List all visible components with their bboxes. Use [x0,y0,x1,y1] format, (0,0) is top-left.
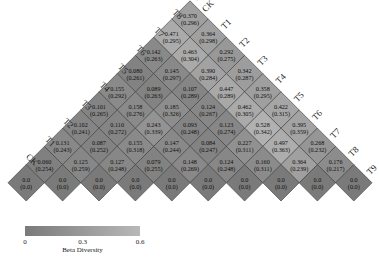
cell-sd: (0.326) [163,110,181,118]
cell-sd: (0.363) [272,146,290,154]
cell-value: 0.497 [274,139,288,146]
cell-sd: (0.315) [272,110,290,118]
cell-value: 0.185 [165,103,179,110]
cell-value: 0.268 [310,139,324,146]
cell-value: 0.123 [219,121,233,128]
cell-sd: (0.296) [181,19,199,27]
cell-value: 0.0 [241,176,249,183]
cell-sd: (0.243) [54,146,72,154]
cell-sd: (0.0) [348,183,360,191]
cell-value: 0.227 [238,139,252,146]
cell-sd: (0.252) [90,146,108,154]
right-axis-label: T2 [237,35,251,49]
cell-value: 0.125 [74,158,88,165]
cell-sd: (0.0) [57,183,69,191]
cell-sd: (0.311) [254,165,272,173]
beta-diversity-heatmap: 0.370(0.296)0.471(0.295)0.364(0.298)0.14… [0,0,379,260]
cell-value: 0.145 [165,67,179,74]
cell-sd: (0.305) [236,110,254,118]
cell-value: 0.462 [238,103,252,110]
cell-value: 0.127 [110,158,124,165]
cell-sd: (0.0) [275,183,287,191]
cell-sd: (0.359) [290,128,308,136]
cell-sd: (0.292) [108,92,126,100]
cell-sd: (0.0) [20,183,32,191]
cell-sd: (0.263) [145,92,163,100]
cell-value: 0.292 [219,48,233,55]
cell-value: 0.422 [274,103,288,110]
cell-sd: (0.0) [93,183,105,191]
cell-value: 0.0 [314,176,322,183]
cell-sd: (0.267) [199,110,217,118]
cell-sd: (0.289) [181,92,199,100]
right-axis-label: T4 [274,71,288,85]
cell-sd: (0.284) [199,74,217,82]
cell-sd: (0.232) [308,146,326,154]
cell-sd: (0.259) [72,165,90,173]
right-axis-label: T9 [365,162,379,176]
cell-value: 0.390 [201,67,215,74]
cell-value: 0.110 [110,121,124,128]
cell-sd: (0.248) [217,165,235,173]
cell-sd: (0.0) [311,183,323,191]
cell-value: 0.364 [201,30,215,37]
cell-value: 0.155 [128,139,142,146]
cell-sd: (0.217) [327,165,345,173]
cell-sd: (0.261) [126,74,144,82]
cell-sd: (0.297) [163,74,181,82]
cell-sd: (0.247) [199,146,217,154]
cell-sd: (0.276) [126,110,144,118]
cell-sd: (0.298) [199,37,217,45]
cell-sd: (0.244) [163,146,181,154]
right-axis-label: T5 [292,89,306,103]
cell-value: 0.0 [350,176,358,183]
cell-sd: (0.287) [236,74,254,82]
cell-sd: (0.339) [145,128,163,136]
cell-sd: (0.0) [239,183,251,191]
cell-sd: (0.265) [90,110,108,118]
colorbar-tick-0: 0 [23,238,27,246]
cell-value: 0.089 [147,85,161,92]
cell-value: 0.463 [183,48,197,55]
cell-value: 0.0 [59,176,67,183]
cell-value: 0.0 [204,176,212,183]
right-axis-label: T3 [255,53,269,67]
cell-value: 0.0 [277,176,285,183]
cell-value: 0.147 [165,139,179,146]
cell-value: 0.124 [201,103,215,110]
cell-value: 0.093 [183,121,197,128]
cell-value: 0.176 [329,158,343,165]
cell-value: 0.342 [238,67,252,74]
cell-sd: (0.254) [35,165,53,173]
cell-value: 0.158 [128,103,142,110]
cell-value: 0.087 [92,139,106,146]
cell-sd: (0.342) [254,128,272,136]
cell-value: 0.0 [95,176,103,183]
cell-value: 0.358 [256,85,270,92]
cell-sd: (0.255) [145,165,163,173]
colorbar-label: Beta Diversity [62,246,103,254]
cell-sd: (0.0) [202,183,214,191]
cell-value: 0.079 [147,158,161,165]
cell-sd: (0.318) [126,146,144,154]
cell-value: 0.243 [147,121,161,128]
cell-sd: (0.304) [181,55,199,63]
cell-sd: (0.311) [236,146,254,154]
cell-value: 0.124 [219,158,233,165]
cell-sd: (0.241) [72,128,90,136]
right-axis-label: T7 [328,126,342,140]
colorbar-gradient [25,226,140,236]
cell-sd: (0.248) [108,165,126,173]
cell-value: 0.0 [132,176,140,183]
right-axis-label: T6 [310,108,324,122]
cell-sd: (0.289) [217,92,235,100]
cell-value: 0.107 [183,85,197,92]
cell-sd: (0.295) [254,92,272,100]
cell-sd: (0.295) [163,37,181,45]
cell-sd: (0.269) [181,165,199,173]
heatmap-cells: 0.370(0.296)0.471(0.295)0.364(0.298)0.14… [8,1,372,201]
cell-sd: (0.263) [145,55,163,63]
right-axis-label: CK [200,0,216,14]
right-axis-label: T8 [346,144,360,158]
cell-value: 0.0 [22,176,30,183]
